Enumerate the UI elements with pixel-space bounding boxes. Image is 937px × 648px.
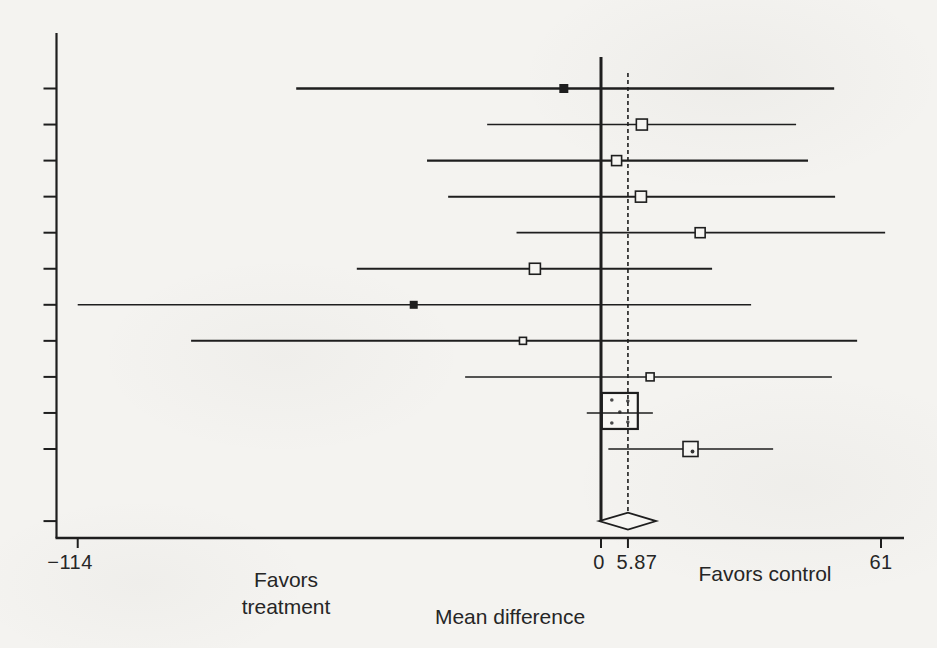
study-marker-1 [559, 84, 568, 93]
x-tick-label-587: 5.87 [617, 551, 658, 574]
study-marker-11 [683, 442, 698, 457]
marker-dot-10-3 [610, 421, 614, 425]
pooled-diamond [599, 513, 656, 530]
study-marker-8 [519, 337, 526, 344]
study-marker-6 [529, 263, 540, 274]
x-tick-label-neg114: −114 [47, 551, 93, 574]
study-marker-7 [410, 301, 418, 309]
x-tick-label-61: 61 [869, 551, 892, 574]
x-tick-label-zero: 0 [593, 551, 605, 574]
forest-plot-canvas [0, 0, 937, 648]
study-marker-2 [636, 119, 647, 130]
study-marker-3 [612, 156, 622, 166]
favors-control-label: Favors control [698, 562, 831, 586]
favors-treatment-label: Favors treatment [221, 566, 351, 620]
x-axis-title: Mean difference [435, 605, 585, 629]
scanned-forest-plot-page: −114 0 5.87 61 Favors treatment Favors c… [0, 0, 937, 648]
marker-dot-11 [691, 450, 695, 454]
study-marker-4 [635, 191, 646, 202]
study-marker-5 [695, 228, 705, 238]
marker-dot-10-1 [610, 398, 614, 402]
study-marker-9 [646, 373, 654, 381]
